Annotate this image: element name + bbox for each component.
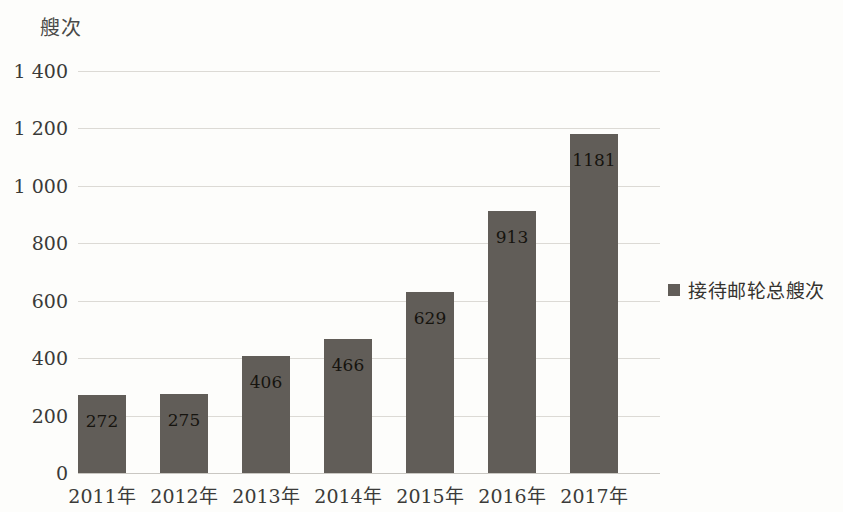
bar-chart: 艘次 02004006008001 0001 2001 400 27227540… [0,0,843,512]
bar[interactable] [570,134,618,473]
bar[interactable] [488,211,536,473]
bar-group: 629 [406,71,454,473]
chart-legend: 接待邮轮总艘次 [668,276,825,303]
legend-entry-label: 接待邮轮总艘次 [688,276,825,303]
bar-group: 275 [160,71,208,473]
square-marker-icon [668,284,680,296]
bar-value-label: 466 [324,355,372,375]
gridline [78,473,660,474]
bar-value-label: 629 [406,308,454,328]
y-axis-tick-label: 800 [2,232,68,254]
bar-value-label: 406 [242,372,290,392]
bar[interactable] [78,395,126,473]
x-axis-tick-label: 2015年 [387,481,473,508]
bar-group: 1181 [570,71,618,473]
y-axis-tick-label: 1 000 [2,175,68,197]
bar-group: 406 [242,71,290,473]
bar-value-label: 1181 [570,150,618,170]
x-axis-tick-label: 2017年 [551,481,637,508]
bar-value-label: 913 [488,227,536,247]
x-axis-tick-label: 2016年 [469,481,555,508]
y-axis-tick-label: 200 [2,405,68,427]
y-axis-tick-label: 1 400 [2,60,68,82]
bar-group: 466 [324,71,372,473]
y-axis-tick-label: 400 [2,347,68,369]
plot-area: 2722754064666299131181 [78,71,660,473]
x-axis-tick-label: 2011年 [59,481,145,508]
x-axis-tick-label: 2014年 [305,481,391,508]
y-axis-tick-label: 600 [2,290,68,312]
bar-value-label: 275 [160,410,208,430]
bar[interactable] [160,394,208,473]
bar-group: 913 [488,71,536,473]
bar-group: 272 [78,71,126,473]
x-axis-tick-label: 2013年 [223,481,309,508]
y-axis-title: 艘次 [40,12,82,41]
bar-value-label: 272 [78,411,126,431]
y-axis-tick-label: 1 200 [2,117,68,139]
x-axis-tick-label: 2012年 [141,481,227,508]
